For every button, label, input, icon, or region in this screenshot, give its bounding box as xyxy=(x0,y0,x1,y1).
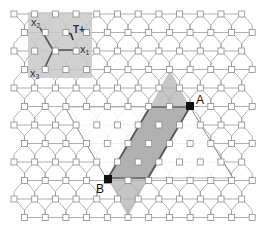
lattice-node xyxy=(249,30,255,36)
lattice-node xyxy=(135,196,141,202)
lattice-node xyxy=(146,30,152,36)
lattice-node xyxy=(22,67,28,73)
lattice-node xyxy=(146,104,152,110)
lattice-node xyxy=(187,215,193,221)
lattice-node xyxy=(104,67,110,73)
axis-label-x2-sub: 2 xyxy=(37,22,41,29)
lattice-node xyxy=(156,48,162,54)
lattice-node xyxy=(94,122,100,128)
lattice-node xyxy=(156,11,162,17)
lattice-node xyxy=(166,104,172,110)
lattice-node xyxy=(239,196,245,202)
lattice-node xyxy=(52,11,58,17)
lattice-node xyxy=(208,141,214,147)
axis-label-x1: x1 xyxy=(80,44,89,56)
lattice-node xyxy=(218,11,224,17)
lattice-node xyxy=(156,196,162,202)
lattice-node xyxy=(42,67,48,73)
lattice-node xyxy=(104,141,110,147)
lattice-node xyxy=(177,159,183,165)
lattice-node xyxy=(52,122,58,128)
lattice-node xyxy=(63,178,69,184)
lattice-node xyxy=(229,215,235,221)
lattice-node xyxy=(166,30,172,36)
lattice-node xyxy=(63,104,69,110)
lattice-node xyxy=(177,48,183,54)
lattice-node xyxy=(229,67,235,73)
lattice-node xyxy=(146,178,152,184)
t-plus-label: T+ xyxy=(73,25,85,35)
lattice-node xyxy=(22,104,28,110)
lattice-node xyxy=(187,30,193,36)
axis-label-x3: x3 xyxy=(30,68,39,80)
lattice-node xyxy=(218,85,224,91)
lattice-node xyxy=(197,85,203,91)
lattice-node xyxy=(32,122,38,128)
lattice-node xyxy=(11,85,17,91)
lattice-node xyxy=(177,11,183,17)
lattice-node xyxy=(197,122,203,128)
lattice-node xyxy=(32,159,38,165)
lattice-node xyxy=(32,196,38,202)
lattice-node xyxy=(249,141,255,147)
lattice-node xyxy=(187,178,193,184)
lattice-node xyxy=(135,85,141,91)
lattice-node xyxy=(208,104,214,110)
lattice-node xyxy=(166,141,172,147)
lattice-node xyxy=(229,178,235,184)
lattice-node xyxy=(22,30,28,36)
lattice-node xyxy=(42,178,48,184)
point-B-label: B xyxy=(96,183,104,195)
lattice-node xyxy=(42,30,48,36)
lattice-node xyxy=(135,48,141,54)
lattice-node xyxy=(115,159,121,165)
lattice-node xyxy=(63,141,69,147)
lattice-node xyxy=(104,30,110,36)
lattice-node xyxy=(42,141,48,147)
lattice-node xyxy=(52,85,58,91)
lattice-node xyxy=(146,67,152,73)
lattice-node xyxy=(115,196,121,202)
lattice-node xyxy=(197,196,203,202)
lattice-node xyxy=(125,30,131,36)
lattice-node xyxy=(84,178,90,184)
lattice-node xyxy=(156,85,162,91)
lattice-node xyxy=(166,178,172,184)
lattice-node xyxy=(146,141,152,147)
lattice-node xyxy=(177,85,183,91)
lattice-node xyxy=(115,11,121,17)
lattice-node xyxy=(73,85,79,91)
lattice-node xyxy=(84,141,90,147)
lattice-node xyxy=(52,159,58,165)
lattice-node xyxy=(229,104,235,110)
lattice-node xyxy=(125,178,131,184)
lattice-node xyxy=(146,215,152,221)
axis-label-x2: x2 xyxy=(31,17,40,29)
lattice-node xyxy=(42,104,48,110)
point-A-marker xyxy=(186,102,194,110)
lattice-node xyxy=(11,11,17,17)
point-B-marker xyxy=(104,175,112,183)
lattice-node xyxy=(197,48,203,54)
lattice-node xyxy=(187,141,193,147)
lattice-node xyxy=(22,215,28,221)
lattice-node xyxy=(73,159,79,165)
lattice-node xyxy=(177,122,183,128)
lattice-node xyxy=(125,67,131,73)
lattice-node xyxy=(84,104,90,110)
lattice-node xyxy=(22,178,28,184)
lattice-node xyxy=(73,48,79,54)
lattice-node xyxy=(166,215,172,221)
lattice-node xyxy=(239,122,245,128)
lattice-node xyxy=(249,178,255,184)
lattice-node xyxy=(22,141,28,147)
lattice-node xyxy=(42,215,48,221)
lattice-node xyxy=(125,215,131,221)
lattice-node xyxy=(156,122,162,128)
lattice-node xyxy=(84,215,90,221)
lattice-node xyxy=(94,196,100,202)
lattice-diagram xyxy=(0,0,268,230)
lattice-node xyxy=(52,48,58,54)
lattice-node xyxy=(166,67,172,73)
lattice-node xyxy=(94,85,100,91)
